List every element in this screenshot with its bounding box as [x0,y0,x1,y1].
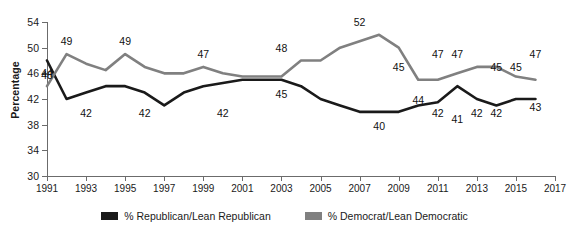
x-tick [516,176,517,181]
data-point-label: 45 [393,61,405,73]
x-tick-label: 2007 [348,183,370,194]
data-point-label: 45 [510,61,522,73]
data-point-label: 42 [491,107,503,119]
x-tick [399,176,400,181]
x-tick-label: 2009 [388,183,410,194]
legend-item[interactable]: % Republican/Lean Republican [101,210,271,222]
data-point-label: 42 [432,107,444,119]
y-tick-label: 38 [27,119,39,131]
plot-area: 30343842465054 1991199319951997199920012… [47,22,555,176]
legend-swatch [305,212,322,220]
x-tick [125,176,126,181]
data-point-label: 41 [451,113,463,125]
y-tick-label: 46 [27,67,39,79]
x-axis-line [47,176,555,177]
y-tick-label: 50 [27,42,39,54]
data-point-label: 45 [491,61,503,73]
x-tick-label: 2015 [505,183,527,194]
x-tick-label: 2013 [466,183,488,194]
x-tick-label: 2011 [427,183,449,194]
x-tick [360,176,361,181]
data-point-label: 40 [373,120,385,132]
data-point-label: 49 [61,35,73,47]
data-point-label: 42 [139,107,151,119]
x-tick [555,176,556,181]
x-tick-label: 2003 [270,183,292,194]
x-tick [281,176,282,181]
legend-item[interactable]: % Democrat/Lean Democratic [305,210,468,222]
legend-label: % Democrat/Lean Democratic [328,210,468,222]
x-tick-label: 2005 [309,183,331,194]
chart-container: Percentage 30343842465054 19911993199519… [0,0,569,242]
legend-label: % Republican/Lean Republican [124,210,271,222]
x-tick [47,176,48,181]
data-point-label: 49 [119,35,131,47]
chart-legend: % Republican/Lean Republican% Democrat/L… [0,210,569,222]
x-tick-label: 1995 [114,183,136,194]
x-tick [477,176,478,181]
x-tick [86,176,87,181]
x-tick-label: 1997 [153,183,175,194]
x-tick [321,176,322,181]
x-tick-label: 1993 [75,183,97,194]
data-point-label: 47 [530,48,542,60]
data-point-label: 45 [276,88,288,100]
data-point-label: 52 [354,16,366,28]
legend-swatch [101,212,118,220]
x-tick-label: 2017 [544,183,566,194]
y-axis-title: Percentage [9,53,21,127]
x-tick [438,176,439,181]
x-tick-label: 2001 [231,183,253,194]
data-point-label: 47 [432,48,444,60]
data-point-label: 47 [451,48,463,60]
x-tick-label: 1991 [36,183,58,194]
data-point-label: 47 [197,48,209,60]
data-point-label: 48 [276,42,288,54]
data-point-label: 42 [217,107,229,119]
x-tick [203,176,204,181]
y-tick-label: 30 [27,170,39,182]
x-tick [164,176,165,181]
y-tick-label: 54 [27,16,39,28]
y-tick-label: 34 [27,144,39,156]
data-point-label: 44 [41,67,53,79]
y-tick-label: 42 [27,93,39,105]
data-point-label: 43 [530,101,542,113]
x-tick [242,176,243,181]
x-tick-label: 1999 [192,183,214,194]
data-point-label: 44 [412,94,424,106]
data-point-label: 42 [80,107,92,119]
data-point-label: 42 [471,107,483,119]
